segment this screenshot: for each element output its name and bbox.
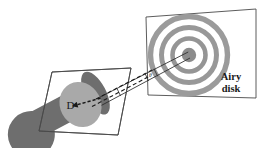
- airy-disk-label-line1: Airy: [221, 71, 242, 82]
- airy-central-disk: [182, 48, 196, 62]
- airy-disk-diagram: Airy disk θ D: [0, 0, 261, 148]
- airy-disk-label: Airy disk: [221, 71, 242, 94]
- airy-pattern: [151, 17, 228, 94]
- airy-disk-label-line2: disk: [222, 83, 241, 94]
- aperture-diameter-label: D: [67, 99, 75, 111]
- divergence-angle-label: θ: [149, 72, 152, 78]
- observation-plane: Airy disk: [146, 9, 256, 98]
- diagram-canvas: Airy disk θ D: [0, 0, 261, 148]
